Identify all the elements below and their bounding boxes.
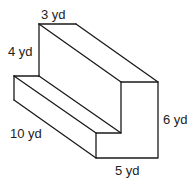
step-outer-depth-edge bbox=[14, 76, 96, 133]
step-inner-depth-edge bbox=[39, 76, 121, 133]
label-depth: 10 yd bbox=[10, 126, 42, 141]
front-face bbox=[96, 82, 158, 158]
label-bottom-width: 5 yd bbox=[115, 163, 140, 178]
label-top-width: 3 yd bbox=[41, 7, 66, 22]
label-upper-height: 4 yd bbox=[8, 44, 33, 59]
label-total-height: 6 yd bbox=[163, 112, 188, 127]
top-right-depth-edge bbox=[76, 24, 158, 82]
l-shaped-prism-diagram: 3 yd 4 yd 10 yd 5 yd 6 yd bbox=[0, 0, 196, 186]
top-left-depth-edge bbox=[39, 24, 121, 82]
